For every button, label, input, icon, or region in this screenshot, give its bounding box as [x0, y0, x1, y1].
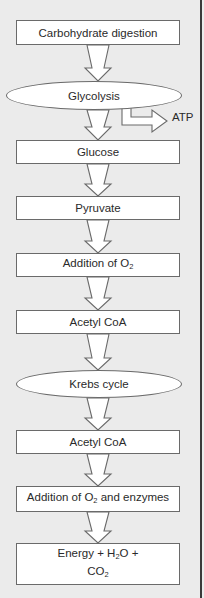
node-addition-of-o2-and-enzymes: Addition of O2 and enzymes [16, 486, 180, 512]
node-glycolysis: Glycolysis [6, 81, 182, 110]
node-label: Glucose [77, 145, 119, 159]
node-label: Pyruvate [75, 201, 120, 215]
node-acetyl-coa-1: Acetyl CoA [16, 310, 180, 334]
node-carbohydrate-digestion: Carbohydrate digestion [16, 20, 180, 45]
arrow-down-icon [85, 512, 111, 543]
node-label: Acetyl CoA [70, 315, 127, 329]
node-krebs-cycle: Krebs cycle [16, 370, 182, 398]
node-label-line1: Energy + H2O + [58, 546, 139, 564]
node-label: Krebs cycle [69, 377, 128, 391]
node-glucose: Glucose [16, 140, 180, 164]
node-acetyl-coa-2: Acetyl CoA [16, 430, 180, 454]
node-label-line2: CO2 [87, 564, 108, 582]
arrow-down-icon [85, 164, 111, 196]
arrow-right-icon [122, 106, 167, 132]
node-label: Glycolysis [68, 89, 120, 103]
node-label: Addition of O2 and enzymes [27, 490, 169, 508]
node-energy-water-co2: Energy + H2O + CO2 [16, 543, 180, 585]
arrow-down-icon [85, 454, 111, 486]
arrow-down-icon [85, 110, 111, 140]
node-label: Carbohydrate digestion [39, 26, 158, 40]
atp-label: ATP [172, 111, 194, 123]
arrow-down-icon [85, 277, 111, 310]
arrow-down-icon [85, 334, 111, 370]
node-label: Acetyl CoA [70, 435, 127, 449]
arrow-down-icon [85, 45, 111, 81]
node-addition-of-o2: Addition of O2 [16, 253, 180, 277]
arrow-down-icon [85, 220, 111, 253]
node-pyruvate: Pyruvate [16, 196, 180, 220]
arrow-down-icon [85, 398, 111, 430]
node-label: Addition of O2 [63, 256, 134, 274]
